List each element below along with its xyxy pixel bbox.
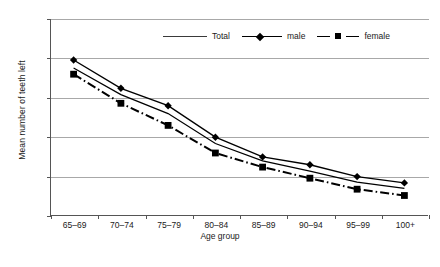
legend-female-dash-icon — [346, 36, 359, 37]
x-tick-mark — [287, 215, 288, 219]
gridline — [51, 58, 429, 59]
x-tick-mark — [240, 215, 241, 219]
gridline — [51, 177, 429, 178]
x-axis-title: Age group — [0, 231, 440, 241]
legend-label-male: male — [287, 31, 305, 41]
legend-label-female: female — [364, 31, 390, 41]
gridline — [51, 137, 429, 138]
legend-male-line-icon — [242, 36, 282, 37]
gridline — [51, 98, 429, 99]
legend-female-dash-icon — [317, 36, 330, 37]
x-tick-mark — [429, 215, 430, 219]
y-tick-mark — [47, 19, 51, 20]
x-tick-mark — [193, 215, 194, 219]
legend-female-square-icon — [335, 33, 341, 39]
plot-area: 051015202565–6970–7475–7980–8485–8990–94… — [50, 19, 428, 216]
chart-figure: Mean number of teeth left 051015202565–6… — [0, 0, 440, 267]
y-tick-mark — [47, 137, 51, 138]
chart-legend: Total male female — [163, 27, 390, 45]
legend-label-total: Total — [212, 31, 230, 41]
y-tick-mark — [47, 98, 51, 99]
x-tick-label: 100+ — [375, 220, 435, 230]
gridline — [51, 19, 429, 20]
legend-total-line-icon — [163, 36, 207, 37]
y-tick-mark — [47, 177, 51, 178]
x-tick-mark — [146, 215, 147, 219]
x-tick-mark — [98, 215, 99, 219]
x-tick-mark — [382, 215, 383, 219]
y-axis-title: Mean number of teeth left — [17, 25, 27, 195]
x-tick-mark — [335, 215, 336, 219]
y-tick-mark — [47, 58, 51, 59]
x-tick-mark — [51, 215, 52, 219]
